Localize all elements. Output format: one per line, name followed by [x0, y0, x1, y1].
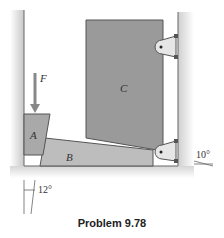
figure-caption: Problem 9.78	[0, 217, 224, 229]
left-wall	[10, 10, 24, 168]
force-label: F	[39, 72, 47, 84]
block-a-label: A	[29, 129, 37, 141]
angle-10-indicator	[194, 161, 213, 166]
angle-12-label: 12°	[38, 184, 52, 195]
block-b-label: B	[66, 151, 73, 163]
angle-10-label: 10°	[196, 149, 210, 160]
block-c-label: C	[120, 82, 128, 94]
right-wall	[178, 12, 194, 168]
force-arrow	[30, 73, 40, 113]
diagram-canvas: C B A F 10° 12°	[0, 0, 224, 238]
angle-12-indicator	[24, 180, 35, 214]
floor	[10, 166, 194, 178]
